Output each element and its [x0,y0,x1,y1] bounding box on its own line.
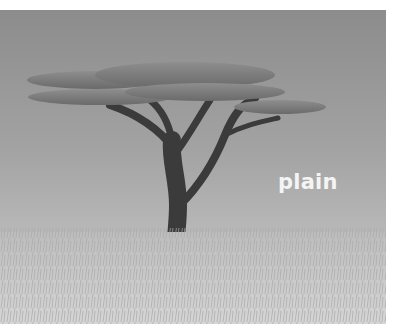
acacia-tree-graphic [0,10,386,324]
caption-label: plain [278,170,338,194]
savanna-illustration: plain [0,10,386,324]
